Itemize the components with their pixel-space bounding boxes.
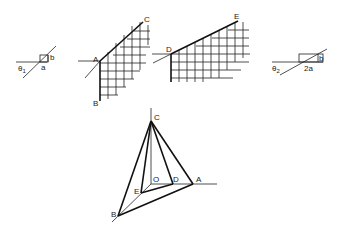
2a-label: 2a (304, 64, 313, 73)
edge-ed (141, 184, 173, 193)
figure-pyramid: C O D A E B (111, 108, 217, 222)
figure-abc-hatched: A B C (78, 15, 150, 108)
diagram-canvas: θ1 a b A B C (0, 0, 341, 236)
label-d: D (173, 175, 179, 184)
label-e: E (134, 187, 139, 196)
step-box (40, 55, 48, 62)
hatch-grid (100, 22, 150, 99)
figure-theta1: θ1 a b (16, 46, 56, 78)
label-a: A (93, 55, 99, 64)
label-c: C (154, 113, 160, 122)
b-label: b (50, 53, 55, 62)
label-e: E (234, 12, 239, 21)
hatch-grid (171, 22, 249, 82)
label-d: D (166, 45, 172, 54)
label-b: B (93, 99, 98, 108)
b-label: b (319, 54, 324, 63)
label-b: B (111, 210, 116, 219)
a-label: a (41, 63, 46, 72)
edge-de (171, 21, 238, 54)
label-c: C (144, 15, 150, 24)
extension-line (153, 54, 171, 63)
edge-cb (118, 121, 151, 216)
edge-ce (141, 121, 151, 193)
theta2-label: θ2 (272, 64, 280, 74)
depth-axis (112, 184, 151, 222)
theta1-label: θ1 (18, 64, 26, 74)
label-a: A (196, 175, 202, 184)
figure-de-hatched: D E (152, 12, 250, 82)
label-o: O (153, 175, 159, 184)
figure-theta2: θ2 2a b (272, 49, 327, 75)
